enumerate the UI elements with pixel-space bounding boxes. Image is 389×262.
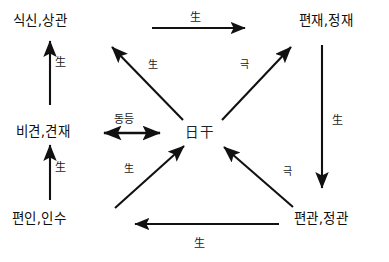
- edge-label-middle-left-center: 동등: [114, 114, 134, 125]
- node-top-left: 식신,상관: [13, 14, 67, 28]
- edge-center-to-top-left: [112, 47, 183, 120]
- edge-label-top-horizontal: 生: [190, 12, 201, 23]
- node-bottom-right: 편관,정관: [294, 212, 348, 226]
- edge-label-bottom-right-to-center: 극: [283, 167, 292, 177]
- edge-label-bottom-horizontal: 生: [194, 238, 205, 249]
- edge-label-center-to-top-right: 극: [240, 60, 249, 70]
- edge-label-left-upper-vertical: 生: [55, 57, 66, 68]
- node-top-right: 편재,정재: [299, 14, 353, 28]
- edge-bottom-left-to-center: [115, 146, 184, 208]
- node-middle-left: 비견,견재: [16, 125, 70, 139]
- edge-label-right-vertical: 生: [332, 115, 343, 126]
- node-center-ilgan: 日干: [185, 126, 214, 140]
- edge-label-center-to-top-left: 生: [148, 60, 158, 70]
- edge-bottom-right-to-center: [224, 147, 293, 207]
- node-bottom-left: 편인,인수: [12, 212, 66, 226]
- edge-label-bottom-left-to-center: 生: [124, 164, 134, 174]
- edge-label-left-lower-vertical: 生: [55, 162, 66, 173]
- diagram-canvas: 식신,상관 편재,정재 비견,견재 편인,인수 편관,정관 日干 生 生 生 生…: [0, 0, 389, 262]
- edge-center-to-top-right: [222, 47, 291, 120]
